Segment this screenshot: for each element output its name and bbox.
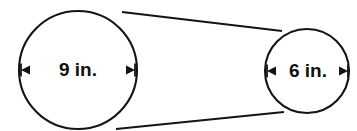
lower-tangent-belt-line xyxy=(116,112,284,129)
arrowhead-left-icon xyxy=(267,67,276,76)
belt-lines-group xyxy=(116,12,284,129)
large-pulley-group: 9 in. xyxy=(19,11,137,129)
geometry-figure: 9 in. 6 in. xyxy=(0,0,357,131)
small-circle-diameter-label: 6 in. xyxy=(289,60,327,81)
arrowhead-left-icon xyxy=(21,66,30,75)
large-circle-diameter-label: 9 in. xyxy=(59,59,97,80)
upper-tangent-belt-line xyxy=(122,12,282,31)
arrowhead-right-icon xyxy=(126,66,135,75)
figure-canvas: 9 in. 6 in. xyxy=(0,0,357,131)
arrowhead-right-icon xyxy=(339,67,348,76)
small-pulley-group: 6 in. xyxy=(265,29,349,113)
